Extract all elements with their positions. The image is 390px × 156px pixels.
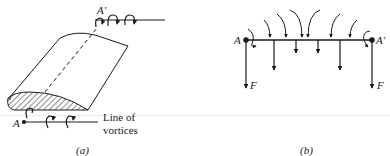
- panel-b-circulation-arrows: [248, 10, 370, 47]
- caption-b: (b): [300, 145, 313, 156]
- panel-a-vortex-line-top: [95, 15, 165, 27]
- label-line-of: Line of: [103, 112, 135, 123]
- label-vortices: vortices: [103, 125, 138, 136]
- label-force-left: F: [250, 80, 257, 91]
- panel-a-vortex-line-bottom: [23, 108, 99, 128]
- label-b-a: A: [234, 35, 241, 46]
- label-b-a-prime: A′: [376, 35, 385, 46]
- diagram-canvas: [0, 0, 390, 156]
- panel-b-bar: [244, 38, 374, 42]
- panel-a-wing: [8, 28, 128, 110]
- caption-a: (a): [76, 145, 89, 156]
- label-a-bottom: A: [13, 118, 20, 129]
- label-force-right: F: [377, 80, 384, 91]
- panel-b-force-arrows: [246, 40, 372, 88]
- label-a-prime-top: A′: [97, 5, 106, 16]
